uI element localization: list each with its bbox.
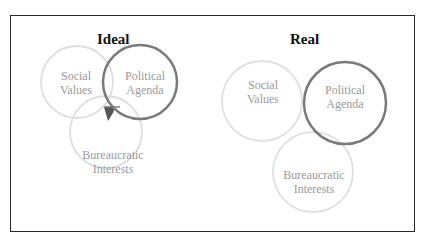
ideal-social-values-label: Social Values bbox=[46, 69, 106, 97]
real-bureaucratic-interests-label: Bureaucratic Interests bbox=[278, 168, 350, 196]
ideal-political-agenda-label: Political Agenda bbox=[115, 69, 175, 97]
real-title: Real bbox=[290, 31, 319, 48]
ideal-title: Ideal bbox=[97, 31, 130, 48]
real-social-values-label: Social Values bbox=[233, 78, 293, 106]
real-political-agenda-label: Political Agenda bbox=[315, 83, 375, 111]
venn-diagrams bbox=[0, 0, 425, 240]
ideal-bureaucratic-interests-label: Bureaucratic Interests bbox=[78, 148, 148, 176]
